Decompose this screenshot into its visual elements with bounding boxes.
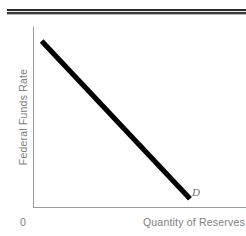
demand-curve-line [42,41,190,199]
origin-label: 0 [20,216,26,228]
y-axis-label: Federal Funds Rate [17,69,29,165]
demand-curve-label: D [192,186,200,198]
plot-area [0,0,246,236]
economics-figure: Federal Funds Rate Quantity of Reserves … [0,0,246,236]
x-axis-label: Quantity of Reserves [143,216,245,228]
